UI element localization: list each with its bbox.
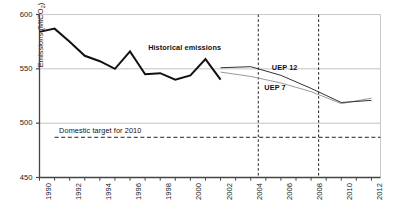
x-tick-label-2008: 2008: [315, 183, 324, 217]
x-tick-label-2004: 2004: [255, 183, 264, 217]
x-tick-label-2002: 2002: [225, 183, 234, 217]
series-uep-7: [221, 72, 372, 104]
x-tick-label-1996: 1996: [134, 183, 143, 217]
x-tick-label-2000: 2000: [194, 183, 203, 217]
historical-emissions-label: Historical emissions: [148, 43, 221, 52]
series-historical-emissions: [40, 29, 221, 80]
y-tick-label-450: 450: [7, 173, 33, 182]
x-tick-label-2006: 2006: [285, 183, 294, 217]
y-tick-label-550: 550: [7, 64, 33, 73]
x-tick-label-2012: 2012: [375, 183, 384, 217]
x-tick-label-1994: 1994: [104, 183, 113, 217]
x-tick-label-1998: 1998: [164, 183, 173, 217]
y-tick-label-500: 500: [7, 118, 33, 127]
emissions-projection-chart: Emissions (MtCO2) 450500550600 199019921…: [0, 0, 408, 216]
series-uep-12: [221, 67, 372, 103]
x-tick-label-2010: 2010: [345, 183, 354, 217]
uep12-label: UEP 12: [272, 63, 298, 72]
domestic-target-label: Domestic target for 2010: [59, 126, 141, 135]
x-tick-label-1992: 1992: [74, 183, 83, 217]
y-tick-label-600: 600: [7, 10, 33, 19]
x-tick-label-1990: 1990: [44, 183, 53, 217]
uep7-label: UEP 7: [264, 83, 285, 92]
